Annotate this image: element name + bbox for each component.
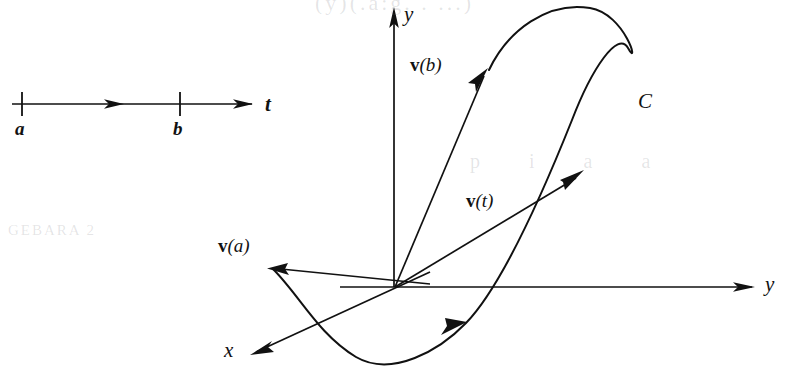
vector-v-t-arrowhead (560, 170, 584, 190)
t-axis-label: t (265, 92, 271, 117)
vector-v-t-label: v(t) (466, 190, 493, 212)
t-axis-tick-label-b: b (173, 118, 183, 140)
x-axis-label: x (224, 338, 233, 363)
vector-v-b-line (395, 76, 484, 287)
vectors-group (267, 68, 584, 287)
x-axis-line (256, 272, 430, 352)
vector-v-t-symbol: v (466, 190, 476, 211)
vector-v-a-symbol: v (218, 235, 228, 256)
vector-v-b-symbol: v (410, 54, 420, 75)
figure-canvas (0, 0, 785, 369)
curve-C-label: C (638, 89, 652, 114)
vector-v-a-argument: (a) (228, 235, 250, 256)
vector-v-b-label: v(b) (410, 54, 442, 76)
t-axis-group (12, 92, 253, 116)
vector-v-b-argument: (b) (420, 54, 442, 75)
curve-C-path (273, 7, 632, 364)
vector-v-t-argument: (t) (476, 190, 494, 211)
vector-v-a-label: v(a) (218, 235, 250, 257)
vector-v-a-line (281, 269, 430, 284)
y-axis-vertical-label: y (404, 2, 413, 27)
y-axis-horizontal-label: y (765, 272, 774, 297)
vector-curve-figure: (y)(.a:g. . ...) p i a a GEBARA 2 a b t … (0, 0, 785, 369)
x-axis-arrowhead (250, 341, 274, 355)
curve-C-group (273, 7, 632, 364)
space-axes-group (250, 7, 755, 355)
t-axis-tick-label-a: a (15, 118, 25, 140)
